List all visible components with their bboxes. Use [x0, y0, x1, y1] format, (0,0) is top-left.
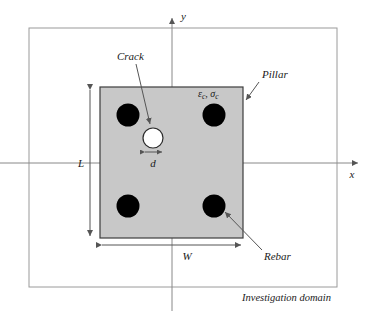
- rebar-bottom-right: [203, 195, 226, 218]
- rebar-top-left: [117, 104, 140, 127]
- figure-container: y x Crack Pillar Rebar εc, σc L W d Inve…: [0, 0, 376, 312]
- y-axis-label: y: [180, 10, 186, 22]
- crack-void: [143, 128, 163, 148]
- crack-label: Crack: [117, 50, 145, 62]
- diagram-canvas: y x Crack Pillar Rebar εc, σc L W d Inve…: [0, 0, 376, 312]
- x-axis-label: x: [349, 168, 355, 180]
- rebar-top-right: [203, 104, 226, 127]
- dimension-d-label: d: [150, 157, 156, 169]
- pillar-label: Pillar: [261, 68, 288, 80]
- rebar-label: Rebar: [263, 250, 292, 262]
- investigation-domain-label: Investigation domain: [241, 292, 331, 303]
- pillar-leader-line: [246, 82, 259, 100]
- dimension-W-label: W: [182, 250, 192, 262]
- rebar-bottom-left: [117, 195, 140, 218]
- dimension-L-label: L: [77, 157, 84, 169]
